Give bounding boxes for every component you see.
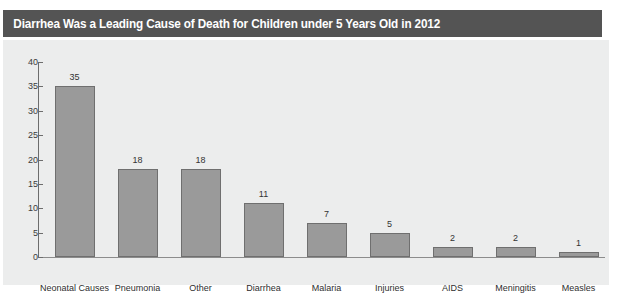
bar[interactable] (118, 169, 158, 257)
bar-value-label: 18 (118, 156, 158, 165)
bar-value-label: 35 (55, 73, 95, 82)
bar[interactable] (496, 247, 536, 257)
bar[interactable] (244, 203, 284, 257)
x-axis-category-label: Measles (537, 283, 618, 293)
y-axis-tick-label: 35 (10, 82, 38, 91)
y-axis-tick-label: 5 (10, 229, 38, 238)
bar-group[interactable]: 1Measles (559, 61, 599, 257)
bar[interactable] (559, 252, 599, 257)
bar-group[interactable]: 35Neonatal Causes (55, 61, 95, 257)
y-axis-tick-label: 10 (10, 204, 38, 213)
bar-group[interactable]: 18Other (181, 61, 221, 257)
bar-value-label: 18 (181, 156, 221, 165)
y-axis-tick-label: 0 (10, 253, 38, 262)
y-axis-tick-label: 30 (10, 107, 38, 116)
bar[interactable] (433, 247, 473, 257)
bar[interactable] (181, 169, 221, 257)
bar[interactable] (55, 86, 95, 257)
bar-group[interactable]: 11Diarrhea (244, 61, 284, 257)
y-axis-tick-label: 15 (10, 180, 38, 189)
bar-group[interactable]: 2Meningitis (496, 61, 536, 257)
bar-group[interactable]: 5Injuries (370, 61, 410, 257)
bar-value-label: 2 (433, 234, 473, 243)
bar-group[interactable]: 7Malaria (307, 61, 347, 257)
y-axis-tick-label: 20 (10, 156, 38, 165)
bar[interactable] (370, 233, 410, 257)
bar-value-label: 2 (496, 234, 536, 243)
y-axis-tick-label: 40 (10, 58, 38, 67)
bar[interactable] (307, 223, 347, 257)
chart-title-bar: Diarrhea Was a Leading Cause of Death fo… (3, 10, 602, 37)
bars-layer: 35Neonatal Causes18Pneumonia18Other11Dia… (38, 40, 605, 285)
y-axis-ticks: 0510152025303540 (3, 40, 38, 285)
chart-title: Diarrhea Was a Leading Cause of Death fo… (3, 17, 440, 31)
bar-value-label: 5 (370, 220, 410, 229)
bar-group[interactable]: 18Pneumonia (118, 61, 158, 257)
bar-value-label: 7 (307, 210, 347, 219)
plot-panel: 0510152025303540 35Neonatal Causes18Pneu… (3, 40, 609, 285)
bar-group[interactable]: 2AIDS (433, 61, 473, 257)
bar-value-label: 1 (559, 239, 599, 248)
y-axis-tick-label: 25 (10, 131, 38, 140)
bar-value-label: 11 (244, 190, 284, 199)
